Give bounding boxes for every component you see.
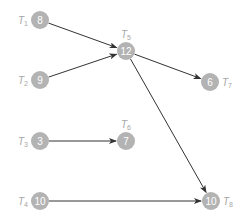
node-value: 8 xyxy=(37,15,43,26)
edge-t2-to-t5 xyxy=(49,54,117,77)
node-label: T1 xyxy=(18,15,28,27)
node-t6: 7T6 xyxy=(117,119,135,150)
node-label: T8 xyxy=(223,196,233,208)
node-value: 7 xyxy=(123,136,129,147)
node-t1: 8T1 xyxy=(18,11,49,29)
edge-t1-to-t5 xyxy=(48,23,116,48)
node-label: T5 xyxy=(121,29,131,41)
node-label-subscript: 4 xyxy=(24,201,28,208)
node-label-subscript: 5 xyxy=(127,34,131,41)
node-value: 12 xyxy=(120,46,132,57)
node-t4: 10T4 xyxy=(18,192,49,210)
node-value: 10 xyxy=(34,196,46,207)
nodes: 8T19T23T310T412T57T66T710T8 xyxy=(18,11,233,210)
edge-t5-to-t7 xyxy=(134,54,200,78)
node-label-subscript: 1 xyxy=(24,20,28,27)
node-value: 10 xyxy=(205,196,217,207)
node-label-subscript: 8 xyxy=(229,201,233,208)
edge-t5-to-t8 xyxy=(130,59,206,192)
node-value: 6 xyxy=(207,77,213,88)
node-t3: 3T3 xyxy=(18,132,49,150)
node-value: 3 xyxy=(37,136,43,147)
node-t2: 9T2 xyxy=(18,71,49,89)
node-label-subscript: 6 xyxy=(127,124,131,131)
node-label: T2 xyxy=(18,75,28,87)
node-label: T3 xyxy=(18,136,28,148)
node-label: T4 xyxy=(18,196,28,208)
node-label-subscript: 3 xyxy=(24,141,28,148)
node-t8: 10T8 xyxy=(202,192,233,210)
node-t5: 12T5 xyxy=(117,29,135,60)
node-t7: 6T7 xyxy=(201,73,232,91)
node-label-subscript: 2 xyxy=(24,80,28,87)
task-graph-diagram: 8T19T23T310T412T57T66T710T8 xyxy=(0,0,243,221)
node-label: T7 xyxy=(222,77,232,89)
node-label-subscript: 7 xyxy=(228,82,232,89)
node-label: T6 xyxy=(121,119,131,131)
node-value: 9 xyxy=(37,75,43,86)
